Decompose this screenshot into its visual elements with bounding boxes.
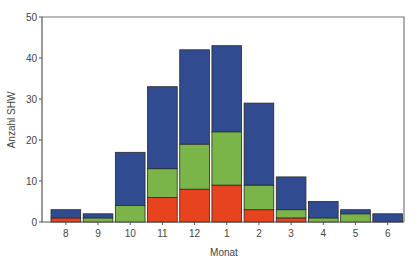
bar-stack bbox=[83, 214, 113, 222]
bar-stack bbox=[341, 210, 371, 222]
bar-segment-green bbox=[148, 169, 178, 198]
x-axis: 89101112123456 bbox=[63, 222, 391, 239]
x-tick-label: 12 bbox=[189, 228, 201, 239]
bar-segment-green bbox=[276, 210, 306, 218]
x-tick-label: 6 bbox=[385, 228, 391, 239]
bar-stack bbox=[308, 202, 338, 223]
y-tick-label: 10 bbox=[26, 176, 38, 187]
bar-stack bbox=[115, 152, 145, 222]
bar-segment-green bbox=[212, 132, 242, 185]
bar-segment-blue bbox=[341, 210, 371, 214]
bar-segment-red bbox=[276, 218, 306, 222]
bar-segment-blue bbox=[373, 214, 403, 222]
bar-segment-green bbox=[83, 218, 113, 222]
x-tick-label: 11 bbox=[157, 228, 168, 239]
x-tick-label: 3 bbox=[288, 228, 294, 239]
bar-stack bbox=[180, 50, 210, 222]
y-tick-label: 50 bbox=[26, 12, 38, 23]
bar-segment-blue bbox=[212, 46, 242, 132]
y-axis: 01020304050 bbox=[26, 12, 42, 228]
y-axis-title: Anzahl SHW bbox=[6, 91, 17, 148]
bar-segment-green bbox=[341, 214, 371, 222]
bar-segment-blue bbox=[180, 50, 210, 144]
bar-stack bbox=[373, 214, 403, 222]
x-tick-label: 8 bbox=[63, 228, 69, 239]
x-tick-label: 4 bbox=[321, 228, 327, 239]
stacked-bar-chart: 01020304050 89101112123456 Monat Anzahl … bbox=[0, 0, 416, 265]
bar-segment-green bbox=[115, 206, 145, 222]
bar-stack bbox=[51, 210, 81, 222]
bar-segment-red bbox=[180, 189, 210, 222]
bar-segment-blue bbox=[51, 210, 81, 218]
y-tick-label: 30 bbox=[26, 94, 38, 105]
x-tick-label: 1 bbox=[224, 228, 230, 239]
bar-segment-red bbox=[148, 197, 178, 222]
bar-segment-red bbox=[212, 185, 242, 222]
bar-segment-blue bbox=[276, 177, 306, 210]
bar-stack bbox=[244, 103, 274, 222]
x-tick-label: 9 bbox=[95, 228, 101, 239]
bar-segment-blue bbox=[83, 214, 113, 218]
bar-segment-blue bbox=[148, 87, 178, 169]
x-tick-label: 5 bbox=[353, 228, 359, 239]
bar-stack bbox=[212, 46, 242, 222]
bar-segment-blue bbox=[244, 103, 274, 185]
bar-segment-blue bbox=[308, 202, 338, 218]
x-tick-label: 2 bbox=[256, 228, 262, 239]
bar-segment-green bbox=[180, 144, 210, 189]
y-tick-label: 20 bbox=[26, 135, 38, 146]
bar-segment-red bbox=[51, 218, 81, 222]
y-tick-label: 40 bbox=[26, 53, 38, 64]
bar-segment-red bbox=[244, 210, 274, 222]
bar-segment-blue bbox=[115, 152, 145, 205]
bar-segment-green bbox=[308, 218, 338, 222]
x-axis-title: Monat bbox=[210, 247, 238, 258]
bar-stack bbox=[276, 177, 306, 222]
bar-segment-green bbox=[244, 185, 274, 210]
x-tick-label: 10 bbox=[125, 228, 137, 239]
y-tick-label: 0 bbox=[31, 217, 37, 228]
bar-stack bbox=[148, 87, 178, 222]
bars bbox=[51, 46, 403, 222]
